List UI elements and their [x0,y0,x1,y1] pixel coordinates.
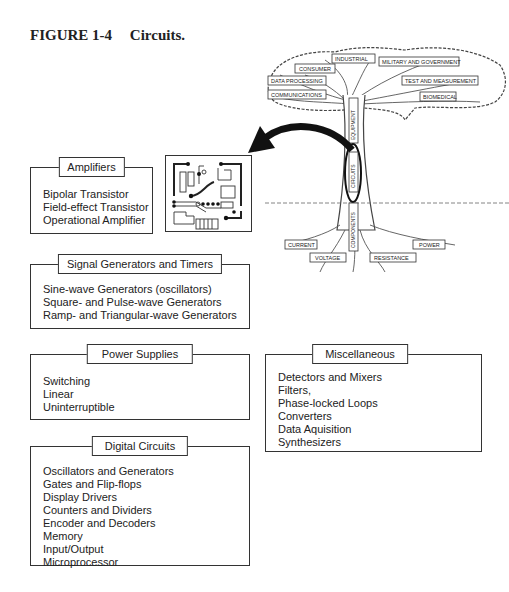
list-item: Converters [278,410,382,423]
amplifiers-list: Bipolar Transistor Field-effect Transist… [43,188,149,227]
list-item: Square- and Pulse-wave Generators [43,296,237,309]
list-item: Oscillators and Generators [43,465,174,478]
figure-number: FIGURE 1-4 [30,27,112,43]
svg-text:CONSUMER: CONSUMER [299,66,331,72]
list-item: Filters, [278,384,382,397]
svg-text:INDUSTRIAL: INDUSTRIAL [335,56,368,62]
svg-text:VOLTAGE: VOLTAGE [315,255,340,261]
digital-circuits-title: Digital Circuits [92,436,188,456]
miscellaneous-title: Miscellaneous [312,344,408,364]
list-item: Linear [43,388,115,401]
list-item: Field-effect Transistor [43,201,149,214]
list-item: Synthesizers [278,436,382,449]
list-item: Microprocessor [43,556,174,569]
svg-text:RESISTANCE: RESISTANCE [374,255,409,261]
list-item: Data Aquisition [278,423,382,436]
signal-generators-list: Sine-wave Generators (oscillators) Squar… [43,283,237,322]
svg-text:DATA PROCESSING: DATA PROCESSING [271,78,323,84]
svg-text:BIOMEDICAL: BIOMEDICAL [423,94,457,100]
svg-text:CIRCUITS: CIRCUITS [350,164,356,188]
power-supplies-list: Switching Linear Uninterruptible [43,375,115,414]
digital-circuits-list: Oscillators and Generators Gates and Fli… [43,465,174,569]
svg-text:CURRENT: CURRENT [288,242,316,248]
svg-text:MILITARY AND GOVERNMENT: MILITARY AND GOVERNMENT [382,59,461,65]
list-item: Input/Output [43,543,174,556]
signal-generators-box: Signal Generators and Timers Sine-wave G… [30,264,250,329]
figure-caption: Circuits. [130,27,185,43]
svg-text:POWER: POWER [419,242,440,248]
list-item: Encoder and Decoders [43,517,174,530]
figure-title: FIGURE 1-4 Circuits. [30,27,185,44]
svg-text:TEST AND MEASUREMENT: TEST AND MEASUREMENT [405,78,477,84]
list-item: Counters and Dividers [43,504,174,517]
list-item: Detectors and Mixers [278,371,382,384]
list-item: Switching [43,375,115,388]
list-item: Ramp- and Triangular-wave Generators [43,309,237,322]
amplifiers-box: Amplifiers Bipolar Transistor Field-effe… [30,167,153,234]
curved-arrow-icon [240,118,360,158]
list-item: Phase-locked Loops [278,397,382,410]
miscellaneous-box: Miscellaneous Detectors and Mixers Filte… [265,354,482,452]
digital-circuits-box: Digital Circuits Oscillators and Generat… [30,446,250,566]
amplifiers-title: Amplifiers [58,157,124,177]
circuit-board-illustration [165,155,252,232]
list-item: Memory [43,530,174,543]
list-item: Uninterruptible [43,401,115,414]
list-item: Operational Amplifier [43,214,149,227]
miscellaneous-list: Detectors and Mixers Filters, Phase-lock… [278,371,382,449]
power-supplies-box: Power Supplies Switching Linear Uninterr… [30,354,250,420]
list-item: Gates and Flip-flops [43,478,174,491]
signal-generators-title: Signal Generators and Timers [58,254,222,274]
list-item: Bipolar Transistor [43,188,149,201]
list-item: Sine-wave Generators (oscillators) [43,283,237,296]
svg-text:COMMUNICATIONS: COMMUNICATIONS [271,92,322,98]
list-item: Display Drivers [43,491,174,504]
svg-text:COMPONENTS: COMPONENTS [350,212,356,249]
power-supplies-title: Power Supplies [87,344,193,364]
